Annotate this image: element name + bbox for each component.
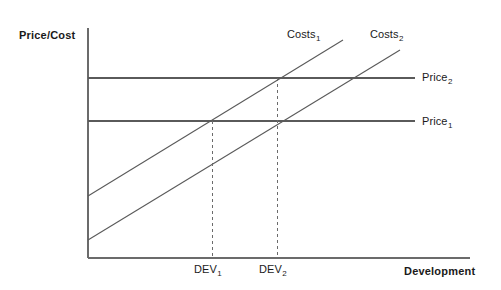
costs2-label: Costs2 xyxy=(370,28,404,40)
costs1-label-text: Costs xyxy=(287,28,316,40)
dev1-label-text: DEV xyxy=(194,263,217,275)
dev2-label-subscript: 2 xyxy=(282,269,287,278)
diagram-canvas: Price/Cost Development Costs1 Costs2 Pri… xyxy=(0,0,501,290)
price1-label-text: Price xyxy=(422,115,448,127)
price1-label-subscript: 1 xyxy=(448,121,453,130)
dev2-axis-label: DEV2 xyxy=(259,263,287,275)
costs2-label-text: Costs xyxy=(370,28,399,40)
costs1-label: Costs1 xyxy=(287,28,321,40)
dev2-label-text: DEV xyxy=(259,263,282,275)
price2-label: Price2 xyxy=(422,71,453,83)
costs2-label-subscript: 2 xyxy=(399,34,404,43)
plot-area xyxy=(0,0,501,290)
x-axis-title: Development xyxy=(404,265,475,277)
costs1-line xyxy=(88,40,343,196)
dev1-axis-label: DEV1 xyxy=(194,263,222,275)
dev1-label-subscript: 1 xyxy=(217,269,222,278)
y-axis-title: Price/Cost xyxy=(19,29,75,41)
price2-label-subscript: 2 xyxy=(448,77,453,86)
costs1-label-subscript: 1 xyxy=(316,34,321,43)
price2-label-text: Price xyxy=(422,71,448,83)
price1-label: Price1 xyxy=(422,115,453,127)
